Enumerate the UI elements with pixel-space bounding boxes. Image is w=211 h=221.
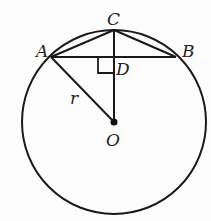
center-point-o [111,119,118,126]
diagram-canvas: C A B D O r [0,0,211,221]
segment-cb [114,30,176,57]
label-a: A [34,41,48,61]
label-r: r [70,88,79,108]
right-angle-marker [98,57,114,73]
label-b: B [181,41,195,61]
label-c: C [107,9,120,29]
label-o: O [106,130,120,150]
radius-ao [51,57,114,122]
label-d: D [115,59,130,79]
segment-ac [51,30,114,57]
circle-diagram: C A B D O r [0,0,211,221]
